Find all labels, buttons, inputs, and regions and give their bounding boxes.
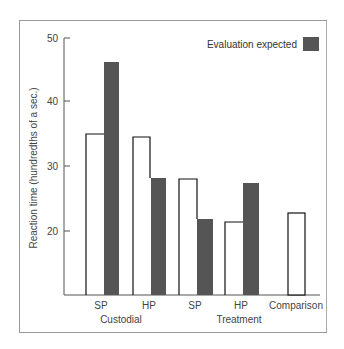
legend: Evaluation expected (207, 37, 319, 51)
tick-label: 30 (47, 161, 59, 172)
tick-label: 20 (47, 226, 59, 237)
bar-custodial-hp (133, 137, 150, 295)
bar-treatment-sp-eval (197, 219, 213, 295)
bar-custodial-hp-eval (151, 178, 166, 295)
bar-custodial-sp (86, 134, 104, 295)
category-label: Comparison (269, 300, 323, 311)
category-label: SP (94, 300, 108, 311)
category-label: HP (142, 300, 156, 311)
tick-label: 50 (47, 33, 59, 44)
bar-chart: 50 40 30 20 Reaction time (hundredths of… (0, 0, 344, 349)
category-label: SP (188, 300, 202, 311)
bar-custodial-sp-eval (104, 62, 119, 295)
legend-label: Evaluation expected (207, 39, 297, 50)
bar-treatment-sp (179, 179, 197, 295)
group-label: Custodial (100, 314, 142, 325)
group-label: Treatment (216, 314, 261, 325)
bar-treatment-hp-eval (243, 183, 259, 295)
legend-swatch (303, 37, 319, 51)
bar-treatment-hp (225, 222, 243, 295)
category-labels: SP HP SP HP Comparison Custodial Treatme… (94, 300, 323, 325)
category-label: HP (234, 300, 248, 311)
y-ticks: 50 40 30 20 (47, 33, 70, 237)
tick-label: 40 (47, 96, 59, 107)
bar-comparison (288, 213, 305, 295)
y-axis-label: Reaction time (hundredths of a sec.) (28, 87, 39, 248)
